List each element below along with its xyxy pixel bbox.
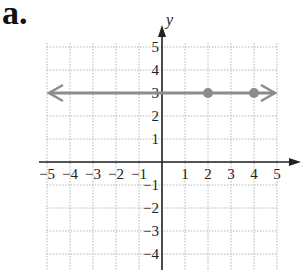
y-tick-label: 4 <box>152 62 160 78</box>
data-point <box>203 88 213 98</box>
y-tick-label: 5 <box>152 39 160 55</box>
x-tick-label: −2 <box>108 166 124 182</box>
x-tick-label: 5 <box>273 166 281 182</box>
x-axis-label: x <box>302 153 303 170</box>
x-tick-label: −3 <box>85 166 101 182</box>
x-tick-label: −5 <box>39 166 55 182</box>
x-tick-label: 3 <box>227 166 235 182</box>
x-tick-label: 2 <box>204 166 212 182</box>
x-axis-arrow-icon <box>289 158 301 166</box>
y-tick-label: −2 <box>143 200 159 216</box>
y-tick-label: −1 <box>143 177 159 193</box>
x-tick-label: 1 <box>181 166 189 182</box>
y-tick-label: −3 <box>143 223 159 239</box>
y-tick-label: 2 <box>152 108 160 124</box>
x-tick-label: 4 <box>250 166 258 182</box>
y-tick-label: 1 <box>152 131 160 147</box>
data-point <box>249 88 259 98</box>
y-axis-arrow-icon <box>158 25 166 37</box>
y-tick-label: −4 <box>143 246 159 262</box>
y-axis-label: y <box>164 11 174 29</box>
x-tick-label: −4 <box>62 166 78 182</box>
coordinate-plane: xy−5−4−3−2−11234554321−1−2−3−4 <box>0 0 303 270</box>
